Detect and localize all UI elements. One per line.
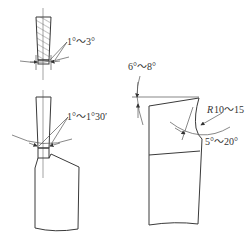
blade-tip — [38, 148, 49, 158]
leader-line — [55, 42, 67, 60]
left-bottom-tool: 1°～1°30′ — [12, 90, 107, 231]
arrow-icon — [137, 82, 138, 97]
construction-line — [182, 107, 193, 140]
arrow-icon — [29, 143, 37, 146]
angle-arc — [170, 122, 230, 135]
blade-body — [36, 97, 51, 148]
angle-label-1-3: 1°～3° — [67, 36, 95, 47]
angle-label-5-20: 5°～20° — [205, 136, 238, 147]
angle-label-6-8: 6°～8° — [128, 61, 156, 72]
tool-shank — [35, 154, 79, 231]
tool-body — [149, 98, 202, 225]
right-tool: 6°～8° R 10～15 5°～20° — [128, 61, 244, 225]
cutting-tool-diagram: 1°～3° 1°～1°30′ 6°～8° R 10～15 5°～20° — [0, 0, 246, 243]
angle-arc — [12, 135, 72, 144]
radius-label: 10～15 — [214, 104, 244, 115]
section-line — [149, 151, 200, 155]
angle-label-1-1-30: 1°～1°30′ — [67, 111, 107, 122]
left-top-section: 1°～3° — [20, 8, 95, 80]
leader-line — [50, 117, 68, 146]
radius-prefix: R — [206, 104, 213, 115]
hatched-section — [36, 17, 51, 60]
leader-line — [50, 42, 67, 60]
